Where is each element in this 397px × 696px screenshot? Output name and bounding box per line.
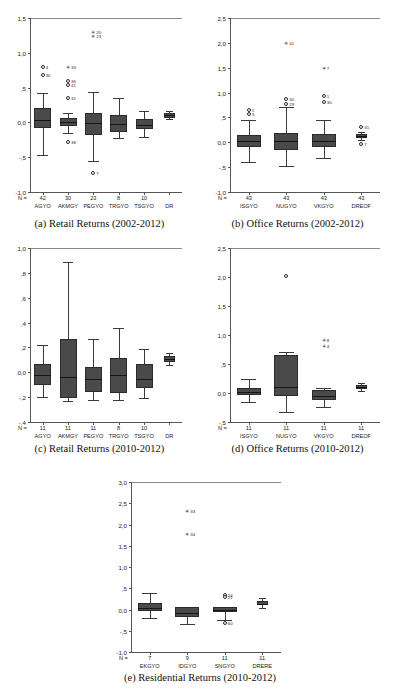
category-label: DREOF (351, 433, 371, 439)
outlier-marker (66, 140, 70, 144)
category-label: NUGYO (276, 203, 297, 209)
outlier-label: 41 (71, 82, 76, 87)
n-count-label: 43 (321, 195, 327, 201)
whisker-cap-upper (279, 107, 294, 108)
y-tick-label: ,5 (0, 84, 26, 91)
panel-caption: (b) Office Returns (2002-2012) (198, 218, 397, 229)
whisker-cap-lower (88, 400, 99, 401)
y-tick-label: ,2 (0, 344, 26, 351)
median-line (138, 608, 162, 609)
extreme-label: 23 (96, 34, 101, 39)
category-label: TRGYO (109, 433, 129, 439)
whisker-cap-upper (113, 98, 124, 99)
median-line (136, 125, 153, 126)
n-count-label: 10 (141, 425, 147, 431)
outlier-label: 31 (71, 96, 76, 101)
category-label: TSGYO (134, 433, 154, 439)
y-tick-mark (228, 422, 231, 423)
y-tick-label: 1,0 (99, 564, 127, 571)
extreme-marker: ✳ (322, 337, 326, 342)
whisker-cap-upper (166, 353, 173, 354)
y-tick-label: 2,5 (198, 15, 226, 22)
n-count-label: 11 (222, 655, 228, 661)
outlier-label: 30 (327, 99, 332, 104)
whisker-cap-lower (279, 166, 294, 167)
n-count-label: 43 (358, 195, 364, 201)
outlier-marker (322, 100, 326, 104)
y-tick-label: 0,0 (0, 369, 26, 376)
whisker-cap-lower (142, 618, 157, 619)
whisker-cap-lower (241, 402, 256, 403)
outlier-label: 7 (364, 142, 366, 147)
whisker-cap-lower (358, 391, 365, 392)
plot-top-rule (230, 18, 380, 19)
n-prefix: N = (218, 195, 227, 201)
y-tick-mark (28, 248, 31, 249)
n-count-label: 8 (117, 425, 120, 431)
plot-top-rule (30, 248, 182, 249)
y-tick-mark (28, 397, 31, 398)
y-tick-mark (129, 567, 132, 568)
whisker-cap-upper (139, 349, 150, 350)
figure-container: 1,51,0,50,0-,5-1,0N =43042AGYO36413138✳3… (0, 0, 397, 696)
outlier-marker (223, 621, 227, 625)
x-axis-line (131, 652, 281, 653)
x-axis-line (30, 192, 182, 193)
whisker-cap-upper (166, 111, 173, 112)
y-tick-mark (228, 393, 231, 394)
median-line (85, 123, 102, 124)
outlier-label: 30 (46, 73, 51, 78)
y-tick-mark (228, 167, 231, 168)
y-tick-mark (28, 422, 31, 423)
y-tick-mark (28, 273, 31, 274)
whisker-cap-upper (37, 345, 48, 346)
y-tick-mark (228, 117, 231, 118)
whisker-cap-lower (139, 398, 150, 399)
y-tick-mark (228, 192, 231, 193)
category-label: PEGYO (83, 433, 103, 439)
whisker-cap-upper (63, 262, 74, 263)
whisker-cap-upper (37, 93, 48, 94)
n-prefix: N = (218, 425, 227, 431)
extreme-marker: ✳ (185, 531, 189, 536)
whisker-cap-upper (88, 92, 99, 93)
category-label: TSGYO (134, 203, 154, 209)
x-axis-line (30, 422, 182, 423)
panel-caption: (e) Residential Returns (2010-2012) (60, 672, 340, 683)
n-count-label: 10 (141, 195, 147, 201)
whisker-cap-lower (37, 397, 48, 398)
n-count-label: 11 (259, 655, 265, 661)
outlier-label: 1 (327, 94, 329, 99)
category-label: DR (165, 203, 173, 209)
y-tick-label: 0,0 (0, 119, 26, 126)
box-rect (136, 364, 153, 388)
n-count-label: 11 (358, 425, 364, 431)
y-tick-label: 3,0 (99, 479, 127, 486)
y-tick-label: 0,0 (198, 390, 226, 397)
category-label: AGYO (35, 433, 51, 439)
whisker-cap-lower (113, 138, 124, 139)
y-tick-label: 2,5 (198, 245, 226, 252)
n-prefix: N = (119, 655, 128, 661)
outlier-marker (247, 112, 251, 116)
whisker-cap-lower (166, 365, 173, 366)
category-label: DRERE (252, 663, 272, 669)
n-count-label: 11 (283, 425, 289, 431)
outlier-marker (284, 102, 288, 106)
median-line (110, 124, 127, 125)
y-tick-label: ,5 (99, 585, 127, 592)
n-count-label: 11 (321, 425, 327, 431)
extreme-label: 33 (71, 65, 76, 70)
y-tick-label: -,5 (0, 154, 26, 161)
category-label: ISGYO (240, 433, 258, 439)
y-tick-label: ,8 (0, 269, 26, 276)
category-label: SNGYO (215, 663, 235, 669)
extreme-label: 4 (327, 344, 329, 349)
y-tick-label: -,5 (99, 627, 127, 634)
extreme-marker: ✳ (322, 66, 326, 71)
y-tick-mark (28, 192, 31, 193)
y-tick-mark (228, 68, 231, 69)
y-tick-label: ,5 (198, 361, 226, 368)
category-label: EKGYO (140, 663, 160, 669)
y-tick-mark (129, 610, 132, 611)
